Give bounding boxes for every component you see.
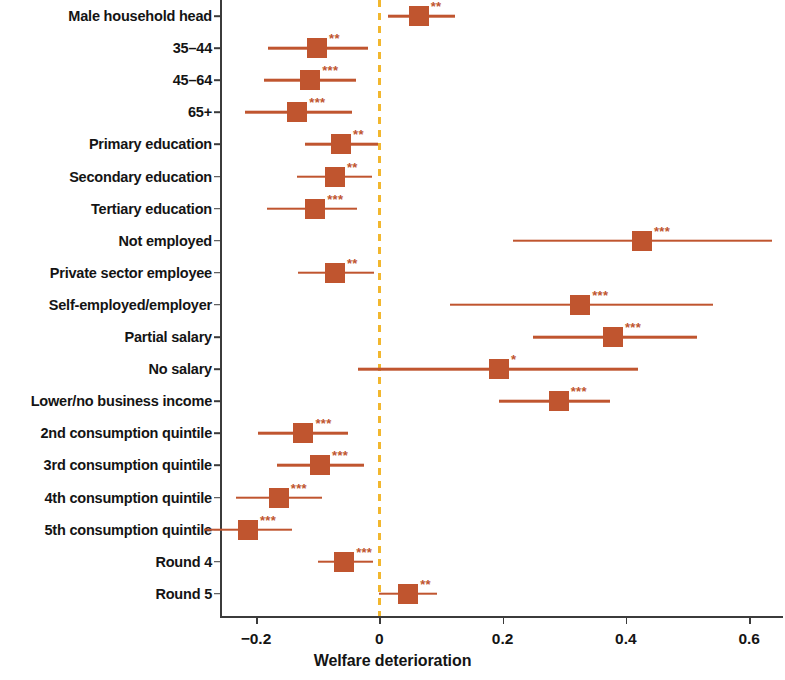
zero-reference-line bbox=[378, 0, 381, 616]
significance-stars: ** bbox=[420, 578, 431, 591]
category-label: 4th consumption quintile bbox=[44, 490, 212, 505]
y-axis-tick bbox=[214, 593, 220, 595]
point-estimate-marker bbox=[489, 359, 509, 379]
y-axis-tick bbox=[214, 400, 220, 402]
significance-stars: ** bbox=[353, 128, 364, 141]
x-axis-tick bbox=[256, 616, 258, 624]
category-label: 3rd consumption quintile bbox=[44, 458, 212, 473]
x-axis-tick bbox=[503, 616, 505, 624]
y-axis-tick bbox=[214, 272, 220, 274]
point-estimate-marker bbox=[300, 70, 320, 90]
category-label: Round 5 bbox=[155, 587, 212, 602]
y-axis-tick bbox=[214, 176, 220, 178]
category-label: Partial salary bbox=[125, 330, 213, 345]
category-label: 65+ bbox=[188, 105, 212, 120]
point-estimate-marker bbox=[238, 520, 258, 540]
category-label: No salary bbox=[149, 362, 213, 377]
x-axis-tick-label: −0.2 bbox=[241, 630, 272, 648]
x-axis-line bbox=[220, 616, 783, 618]
point-estimate-marker bbox=[632, 231, 652, 251]
x-axis-tick-label: 0.4 bbox=[615, 630, 637, 648]
point-estimate-marker bbox=[549, 391, 569, 411]
category-label: 2nd consumption quintile bbox=[40, 426, 212, 441]
y-axis-tick bbox=[214, 79, 220, 81]
y-axis-line bbox=[220, 0, 222, 616]
x-axis-tick-label: 0.6 bbox=[738, 630, 760, 648]
point-estimate-marker bbox=[398, 584, 418, 604]
significance-stars: *** bbox=[309, 96, 325, 109]
significance-stars: *** bbox=[571, 385, 587, 398]
category-label: Primary education bbox=[89, 137, 212, 152]
point-estimate-marker bbox=[310, 455, 330, 475]
significance-stars: ** bbox=[347, 257, 358, 270]
y-axis-tick bbox=[214, 144, 220, 146]
y-axis-tick bbox=[214, 240, 220, 242]
significance-stars: *** bbox=[260, 514, 276, 527]
y-axis-tick bbox=[214, 368, 220, 370]
category-label: Private sector employee bbox=[50, 266, 212, 281]
y-axis-tick bbox=[214, 304, 220, 306]
significance-stars: *** bbox=[291, 482, 307, 495]
x-axis-tick-label: 0 bbox=[375, 630, 384, 648]
category-label: 45–64 bbox=[173, 73, 212, 88]
forest-plot-figure: Male household head35–4445–6465+Primary … bbox=[0, 0, 785, 680]
x-axis-tick bbox=[749, 616, 751, 624]
point-estimate-marker bbox=[287, 102, 307, 122]
x-axis-tick bbox=[626, 616, 628, 624]
y-axis-tick bbox=[214, 433, 220, 435]
significance-stars: ** bbox=[431, 0, 442, 13]
x-axis-title: Welfare deterioration bbox=[0, 652, 785, 670]
category-axis-labels: Male household head35–4445–6465+Primary … bbox=[0, 0, 212, 680]
significance-stars: *** bbox=[327, 193, 343, 206]
category-label: 5th consumption quintile bbox=[44, 522, 212, 537]
category-label: Not employed bbox=[119, 233, 212, 248]
significance-stars: ** bbox=[329, 32, 340, 45]
significance-stars: * bbox=[511, 353, 516, 366]
significance-stars: *** bbox=[315, 417, 331, 430]
point-estimate-marker bbox=[325, 167, 345, 187]
category-label: Round 4 bbox=[155, 554, 212, 569]
y-axis-tick bbox=[214, 561, 220, 563]
point-estimate-marker bbox=[307, 38, 327, 58]
y-axis-tick bbox=[214, 208, 220, 210]
point-estimate-marker bbox=[293, 423, 313, 443]
point-estimate-marker bbox=[269, 488, 289, 508]
significance-stars: ** bbox=[347, 161, 358, 174]
category-label: 35–44 bbox=[173, 41, 212, 56]
significance-stars: *** bbox=[592, 289, 608, 302]
significance-stars: *** bbox=[322, 64, 338, 77]
category-label: Male household head bbox=[68, 9, 212, 24]
y-axis-tick bbox=[214, 15, 220, 17]
significance-stars: *** bbox=[356, 546, 372, 559]
plot-panel: −0.200.20.40.6 *************************… bbox=[220, 0, 785, 620]
point-estimate-marker bbox=[409, 6, 429, 26]
significance-stars: *** bbox=[654, 225, 670, 238]
significance-stars: *** bbox=[332, 449, 348, 462]
y-axis-tick bbox=[214, 497, 220, 499]
y-axis-tick bbox=[214, 336, 220, 338]
significance-stars: *** bbox=[625, 321, 641, 334]
category-label: Self-employed/employer bbox=[49, 298, 212, 313]
category-label: Tertiary education bbox=[91, 201, 212, 216]
x-axis-tick-label: 0.2 bbox=[492, 630, 514, 648]
x-axis-tick bbox=[379, 616, 381, 624]
point-estimate-marker bbox=[603, 327, 623, 347]
category-label: Secondary education bbox=[69, 169, 212, 184]
category-label: Lower/no business income bbox=[31, 394, 212, 409]
y-axis-tick bbox=[214, 112, 220, 114]
point-estimate-marker bbox=[570, 295, 590, 315]
point-estimate-marker bbox=[305, 199, 325, 219]
y-axis-tick bbox=[214, 47, 220, 49]
point-estimate-marker bbox=[331, 134, 351, 154]
point-estimate-marker bbox=[325, 263, 345, 283]
point-estimate-marker bbox=[334, 552, 354, 572]
y-axis-tick bbox=[214, 465, 220, 467]
